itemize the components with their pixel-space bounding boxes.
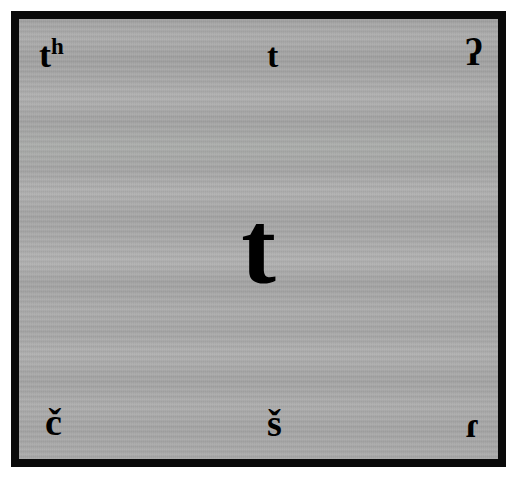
ipa-symbol-bottom-right: ɾ <box>466 407 480 443</box>
ipa-symbol-bottom-center: š <box>267 404 282 442</box>
ipa-symbol-top-left-base: t <box>39 35 51 75</box>
ipa-symbol-top-right: ʔ <box>465 33 482 71</box>
ipa-symbol-center: t <box>19 195 498 299</box>
symbol-frame-border: th t ʔ t č š ɾ <box>11 11 506 467</box>
figure-canvas: th t ʔ t č š ɾ <box>0 0 521 486</box>
ipa-symbol-top-center: t <box>267 39 278 73</box>
ipa-symbol-bottom-left: č <box>45 403 62 441</box>
ipa-symbol-top-left-superscript: h <box>51 34 64 59</box>
ipa-symbol-top-left: th <box>39 37 64 73</box>
